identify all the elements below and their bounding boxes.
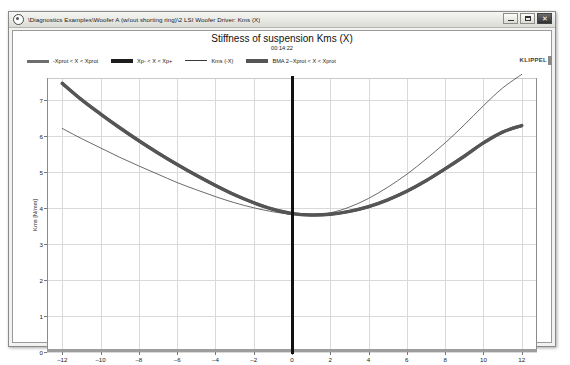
x-tick-mark — [215, 352, 216, 355]
chart-title: Stiffness of suspension Kms (X) — [13, 33, 551, 44]
y-tick-label: 4 — [40, 204, 43, 211]
x-tick-mark — [445, 352, 446, 355]
x-tick-label: –2 — [250, 356, 257, 363]
legend-label: Kms (-X) — [211, 58, 233, 64]
y-axis-title: Kms [N/mm] — [32, 199, 38, 231]
window-titlebar[interactable]: \Diagnostics Examples\Woofer A (w/out sh… — [9, 12, 555, 28]
x-tick-label: –4 — [212, 356, 219, 363]
x-tick-mark — [254, 352, 255, 355]
y-tick-label: 6 — [40, 132, 43, 139]
x-tick-label: 12 — [518, 356, 525, 363]
y-tick-label: 1 — [40, 312, 43, 319]
application-window: \Diagnostics Examples\Woofer A (w/out sh… — [8, 11, 556, 347]
watermark-badge-icon — [548, 56, 552, 65]
x-tick-mark — [177, 352, 178, 355]
maximize-button[interactable] — [520, 13, 535, 24]
x-tick-mark — [62, 352, 63, 355]
x-tick-label: –8 — [135, 356, 142, 363]
x-tick-mark — [101, 352, 102, 355]
x-tick-mark — [407, 352, 408, 355]
window-title: \Diagnostics Examples\Woofer A (w/out sh… — [28, 16, 260, 23]
x-tick-mark — [330, 352, 331, 355]
legend-label: BMA 2--Xprot < X < Xprot — [272, 58, 335, 64]
window-controls: ✕ — [503, 13, 552, 24]
x-tick-label: –12 — [57, 356, 67, 363]
legend-swatch-icon — [185, 60, 207, 62]
x-tick-mark — [522, 352, 523, 355]
x-tick-label: 2 — [329, 356, 332, 363]
y-tick-label: 0 — [40, 349, 43, 356]
zero-cursor-line[interactable] — [291, 76, 294, 354]
chart-subtitle: 00:14:22 — [13, 45, 551, 51]
y-tick-label: 2 — [40, 276, 43, 283]
y-tick-label: 5 — [40, 168, 43, 175]
y-tick-label: 3 — [40, 240, 43, 247]
minimize-button[interactable] — [503, 13, 518, 24]
legend-label: Xp- < X < Xp+ — [137, 58, 172, 64]
legend-swatch-icon — [246, 59, 268, 62]
legend-label: -Xprot < X < Xprot — [53, 58, 98, 64]
close-button[interactable]: ✕ — [537, 13, 552, 24]
x-tick-label: –10 — [95, 356, 105, 363]
x-tick-mark — [369, 352, 370, 355]
legend-item[interactable]: Xp- < X < Xp+ — [111, 58, 172, 64]
legend-swatch-icon — [27, 60, 49, 63]
x-tick-label: 4 — [367, 356, 370, 363]
legend-swatch-icon — [111, 59, 133, 62]
y-tick-mark — [44, 352, 47, 353]
x-tick-label: 8 — [443, 356, 446, 363]
y-tick-label: 7 — [40, 96, 43, 103]
x-tick-label: 6 — [405, 356, 408, 363]
legend-item[interactable]: -Xprot < X < Xprot — [27, 58, 98, 64]
x-tick-label: 0 — [290, 356, 293, 363]
x-tick-mark — [483, 352, 484, 355]
x-tick-label: 10 — [480, 356, 487, 363]
chart-legend: -Xprot < X < XprotXp- < X < Xp+Kms (-X)B… — [27, 55, 447, 67]
klippel-circle-icon — [13, 14, 24, 25]
plot-area: 01234567–12–10–8–6–4–2024681012 Kms [N/m… — [47, 78, 537, 352]
chart-frame: Stiffness of suspension Kms (X) 00:14:22… — [12, 30, 552, 343]
legend-item[interactable]: Kms (-X) — [185, 58, 233, 64]
x-tick-label: –6 — [174, 356, 181, 363]
klippel-watermark: KLIPPEL — [520, 57, 547, 63]
x-tick-mark — [139, 352, 140, 355]
legend-item[interactable]: BMA 2--Xprot < X < Xprot — [246, 58, 335, 64]
